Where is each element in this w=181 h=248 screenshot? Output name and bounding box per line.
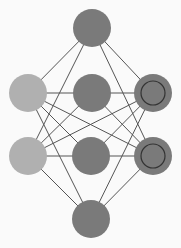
neural-network-diagram (0, 0, 181, 248)
node-left1 (9, 74, 47, 112)
node-mid1 (73, 74, 111, 112)
nodes (9, 9, 172, 238)
edges (28, 28, 153, 219)
node-bottom (72, 200, 110, 238)
node-right1 (134, 74, 172, 112)
node-top (73, 9, 111, 47)
node-mid2 (72, 137, 110, 175)
node-right2 (134, 137, 172, 175)
node-left2 (9, 137, 47, 175)
